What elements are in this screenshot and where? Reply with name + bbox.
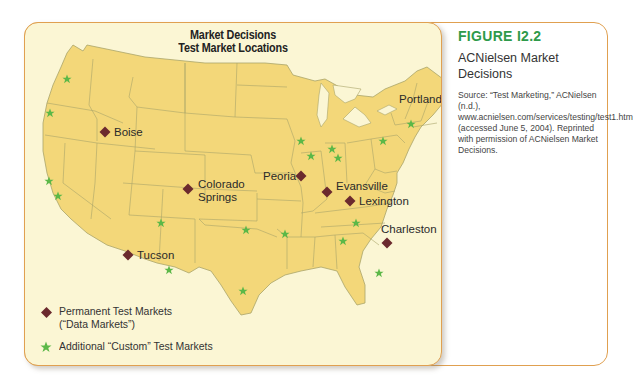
city-label: Lexington bbox=[359, 195, 409, 207]
figure-source: Source: “Test Marketing,” ACNielsen (n.d… bbox=[458, 90, 598, 156]
city-label: Peoria bbox=[263, 170, 297, 182]
city-label: Evansville bbox=[336, 180, 388, 192]
figure-caption: FIGURE I2.2 ACNielsen Market Decisions S… bbox=[458, 28, 598, 156]
diamond-icon bbox=[442, 98, 443, 109]
city-label: Charleston bbox=[381, 223, 437, 235]
city-label: Colorado bbox=[198, 178, 245, 190]
diamond-icon bbox=[382, 238, 393, 249]
legend-permanent: Permanent Test Markets (“Data Markets”) bbox=[39, 305, 221, 331]
legend-custom-label: Additional “Custom” Test Markets bbox=[59, 340, 213, 353]
star-icon bbox=[39, 340, 53, 354]
map-legend: Permanent Test Markets (“Data Markets”) … bbox=[39, 305, 221, 363]
legend-permanent-line1: Permanent Test Markets bbox=[59, 305, 172, 318]
diamond-icon bbox=[39, 305, 53, 319]
map-panel: BoiseColoradoSpringsPeoriaEvansvilleLexi… bbox=[24, 22, 442, 366]
city-label: Boise bbox=[114, 126, 143, 138]
figure-label: FIGURE I2.2 bbox=[458, 28, 598, 44]
city-label: Tucson bbox=[137, 249, 174, 261]
city-label: Portland bbox=[399, 93, 442, 105]
legend-permanent-line2: (“Data Markets”) bbox=[59, 318, 172, 331]
legend-custom: Additional “Custom” Test Markets bbox=[39, 340, 221, 354]
city-label: Springs bbox=[198, 191, 237, 203]
figure-title: ACNielsen Market Decisions bbox=[458, 50, 598, 82]
map-title-line2: Test Market Locations bbox=[46, 42, 420, 55]
star-icon bbox=[374, 268, 383, 277]
map-title: Market Decisions Test Market Locations bbox=[46, 29, 420, 55]
